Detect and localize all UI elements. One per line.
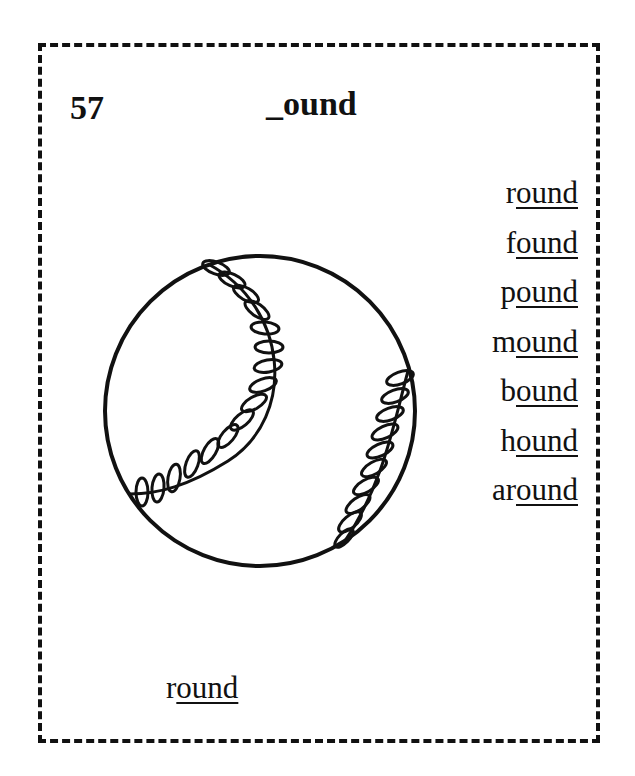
- card-number: 57: [70, 88, 104, 128]
- card-title: _ound: [266, 84, 357, 124]
- word-item: bound: [492, 366, 578, 416]
- word-item: around: [492, 465, 578, 515]
- word-item: mound: [492, 317, 578, 367]
- baseball-icon: [98, 246, 428, 576]
- word-item: pound: [492, 267, 578, 317]
- word-item: hound: [492, 416, 578, 466]
- answer-word: round: [166, 668, 238, 708]
- word-list: round found pound mound bound hound arou…: [492, 168, 578, 515]
- word-item: round: [492, 168, 578, 218]
- word-item: found: [492, 218, 578, 268]
